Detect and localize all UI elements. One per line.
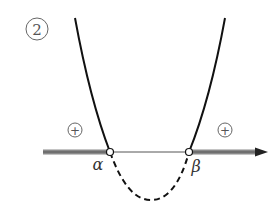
root-alpha-point [107, 149, 114, 156]
figure-number-badge: 2 [26, 18, 48, 40]
sign-right-text: + [220, 124, 230, 138]
figure-number-text: 2 [32, 21, 42, 39]
x-axis-arrow-icon [255, 148, 268, 157]
parabola-sign-diagram: 2 α β + + [0, 0, 275, 214]
parabola-negative-part [110, 152, 189, 200]
root-beta-label: β [190, 157, 200, 176]
diagram-canvas: 2 α β + + [0, 0, 275, 214]
positive-sign-right: + [218, 123, 232, 138]
sign-left-text: + [70, 124, 80, 138]
parabola-left-branch [75, 18, 110, 152]
positive-sign-left: + [68, 123, 82, 138]
root-alpha-label: α [93, 155, 104, 174]
root-beta-point [186, 149, 193, 156]
